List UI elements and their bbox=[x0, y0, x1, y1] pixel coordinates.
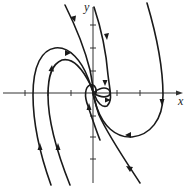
trajectories bbox=[33, 3, 163, 185]
x-axis-label: x bbox=[178, 95, 183, 107]
arrow-icon bbox=[103, 80, 108, 86]
arrow-icon bbox=[104, 33, 109, 40]
direction-arrows bbox=[38, 16, 165, 173]
arrow-icon bbox=[160, 99, 165, 106]
y-axis-label: y bbox=[84, 1, 89, 13]
trajectory-left-inner bbox=[48, 60, 93, 185]
trajectory-upper-right-outer bbox=[93, 3, 163, 137]
phase-portrait bbox=[0, 0, 185, 188]
